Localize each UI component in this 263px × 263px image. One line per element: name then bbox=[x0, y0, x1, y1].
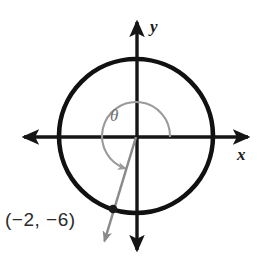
figure-canvas: y x θ (−2, −6) bbox=[0, 0, 263, 263]
math-figure-unit-circle: y x θ (−2, −6) bbox=[0, 0, 263, 263]
terminal-ray bbox=[105, 137, 137, 241]
theta-label: θ bbox=[110, 106, 118, 125]
point-coordinate-label: (−2, −6) bbox=[5, 209, 76, 230]
plotted-point bbox=[109, 205, 118, 214]
x-axis-label: x bbox=[236, 145, 246, 164]
y-axis-label: y bbox=[148, 17, 158, 36]
